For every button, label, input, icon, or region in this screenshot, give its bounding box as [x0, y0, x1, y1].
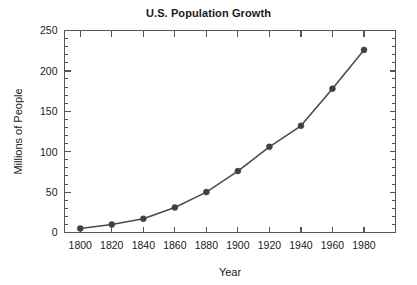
x-tick-label: 1860: [163, 239, 187, 251]
plot-frame: [65, 31, 396, 233]
x-tick-label: 1800: [69, 239, 93, 251]
chart-figure: U.S. Population Growth 05010015020025018…: [0, 0, 417, 285]
x-tick-label: 1960: [321, 239, 345, 251]
y-tick-label: 200: [40, 65, 58, 77]
data-point: [203, 189, 209, 195]
y-tick-label: 250: [40, 24, 58, 36]
line-chart-plot: 0501001502002501800182018401860188019001…: [0, 0, 417, 285]
x-tick-label: 1880: [195, 239, 219, 251]
y-tick-label: 100: [40, 146, 58, 158]
x-tick-label: 1840: [132, 239, 156, 251]
y-tick-label: 50: [46, 186, 58, 198]
data-point: [77, 225, 83, 231]
x-axis-title: Year: [219, 266, 242, 278]
data-point: [361, 47, 367, 53]
y-tick-label: 0: [52, 226, 58, 238]
y-axis-title: Millions of People: [12, 88, 24, 174]
data-point: [172, 204, 178, 210]
data-point: [235, 168, 241, 174]
y-tick-label: 150: [40, 105, 58, 117]
data-point: [329, 86, 335, 92]
x-tick-label: 1980: [352, 239, 376, 251]
series-line-us-population: [80, 50, 364, 229]
x-tick-label: 1940: [289, 239, 313, 251]
x-tick-label: 1900: [226, 239, 250, 251]
data-point: [109, 221, 115, 227]
data-point: [140, 216, 146, 222]
data-point: [266, 144, 272, 150]
x-tick-label: 1920: [258, 239, 282, 251]
x-tick-label: 1820: [100, 239, 124, 251]
data-point: [298, 123, 304, 129]
